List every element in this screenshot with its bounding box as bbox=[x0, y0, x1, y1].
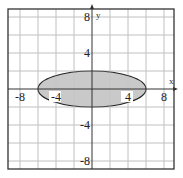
y-tick-label: 8 bbox=[84, 10, 90, 24]
y-tick-label: -4 bbox=[80, 118, 90, 132]
x-tick-label: 4 bbox=[125, 90, 131, 104]
x-tick-label: -4 bbox=[51, 90, 61, 104]
x-axis-arrow-icon bbox=[173, 87, 178, 91]
x-axis-label: x bbox=[169, 76, 174, 86]
x-tick-label: -8 bbox=[15, 90, 25, 104]
ellipse-region-plot: x y -8-44884-4-8 bbox=[0, 0, 183, 178]
y-axis-arrow-icon bbox=[90, 4, 94, 9]
y-tick-label: -8 bbox=[80, 154, 90, 168]
y-axis-label: y bbox=[96, 10, 101, 20]
y-tick-label: 4 bbox=[84, 46, 90, 60]
x-tick-label: 8 bbox=[161, 90, 167, 104]
